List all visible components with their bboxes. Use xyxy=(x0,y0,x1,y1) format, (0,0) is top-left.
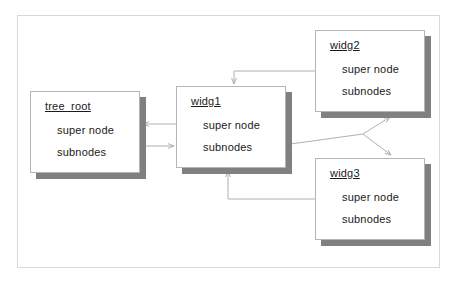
node-widg2-field-subnodes: subnodes xyxy=(342,85,391,97)
node-tree-root-field-super-node: super node xyxy=(57,124,114,136)
node-widg2[interactable]: widg2 super node subnodes xyxy=(315,30,425,112)
node-widg3-field-super-node: super node xyxy=(342,191,399,203)
node-widg2-field-super-node: super node xyxy=(342,63,399,75)
node-tree-root-title: tree_root xyxy=(45,100,91,112)
node-widg3-field-subnodes: subnodes xyxy=(342,213,391,225)
diagram-canvas: tree_root super node subnodes widg1 supe… xyxy=(0,0,457,282)
node-widg3-title: widg3 xyxy=(330,167,360,179)
node-widg1-field-subnodes: subnodes xyxy=(203,141,252,153)
node-widg2-title: widg2 xyxy=(330,39,360,51)
node-widg1-field-super-node: super node xyxy=(203,119,260,131)
node-tree-root[interactable]: tree_root super node subnodes xyxy=(30,91,140,173)
node-widg1-title: widg1 xyxy=(191,95,221,107)
node-widg3[interactable]: widg3 super node subnodes xyxy=(315,158,425,240)
node-tree-root-field-subnodes: subnodes xyxy=(57,146,106,158)
node-widg1[interactable]: widg1 super node subnodes xyxy=(176,86,286,168)
